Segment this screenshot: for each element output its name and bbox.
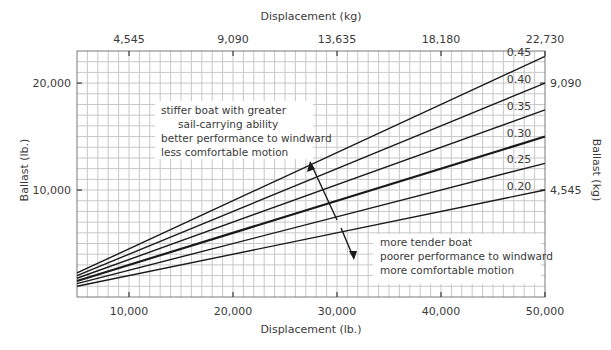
x2-tick-label: 22,730 <box>526 33 565 46</box>
x-tick-label: 20,000 <box>214 305 253 318</box>
annotation-upper-line: stiffer boat with greater <box>161 104 287 116</box>
annotation-upper-line: better performance to windward <box>161 132 332 144</box>
x2-tick-label: 9,090 <box>217 33 249 46</box>
ratio-label-0.20: 0.20 <box>507 180 532 193</box>
annotation-upper: stiffer boat with greatersail-carrying a… <box>155 101 332 159</box>
annotation-lower-line: poorer performance to windward <box>380 250 553 262</box>
y-axis-title: Ballast (lb.) <box>18 139 31 202</box>
y-tick-label: 20,000 <box>33 77 72 90</box>
direction-arrows <box>307 161 357 260</box>
ballast-displacement-chart: stiffer boat with greatersail-carrying a… <box>0 0 611 350</box>
ratio-label-0.30: 0.30 <box>507 127 532 140</box>
y-tick-label: 10,000 <box>33 184 72 197</box>
ratio-label-0.45: 0.45 <box>507 46 532 59</box>
x2-tick-label: 4,545 <box>113 33 145 46</box>
annotation-lower-line: more comfortable motion <box>380 264 514 276</box>
annotation-lower: more tender boatpoorer performance to wi… <box>373 234 553 284</box>
annotation-upper-line: less comfortable motion <box>161 146 288 158</box>
x2-tick-label: 18,180 <box>422 33 461 46</box>
x-tick-label: 50,000 <box>526 305 565 318</box>
arrow-down-head <box>349 251 357 260</box>
x-tick-label: 40,000 <box>422 305 461 318</box>
ratio-label-0.35: 0.35 <box>507 100 532 113</box>
top-axis-title: Displacement (kg) <box>260 10 361 23</box>
y2-tick-label: 4,545 <box>550 184 582 197</box>
annotation-lower-line: more tender boat <box>380 236 472 248</box>
arrow-down-line <box>341 228 352 254</box>
x-tick-label: 10,000 <box>110 305 149 318</box>
right-axis-title: Ballast (kg) <box>590 139 603 202</box>
x-axis-title: Displacement (lb.) <box>260 323 361 336</box>
y2-tick-label: 9,090 <box>550 77 582 90</box>
ratio-label-0.25: 0.25 <box>507 153 532 166</box>
x2-tick-label: 13,635 <box>318 33 357 46</box>
x-tick-label: 30,000 <box>318 305 357 318</box>
ratio-label-0.40: 0.40 <box>507 73 532 86</box>
annotation-upper-line: sail-carrying ability <box>178 118 278 130</box>
